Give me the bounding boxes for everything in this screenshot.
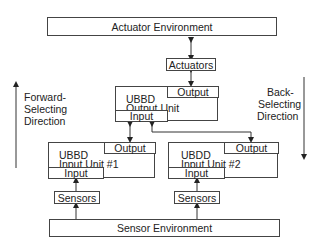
actuator-environment-box: Actuator Environment	[47, 17, 277, 36]
input-unit-2-input-port: Input	[168, 167, 225, 179]
back-line1: Back-	[267, 87, 294, 98]
input-unit-2-box: UBDD Input Unit #2 Output Input	[168, 142, 278, 178]
sensors-2-label: Sensors	[178, 192, 217, 204]
forward-line1: Forward-	[24, 92, 66, 103]
input-unit-2-output-port: Output	[224, 142, 279, 154]
input-port-label: Input	[185, 167, 208, 179]
sensor-environment-label: Sensor Environment	[117, 222, 212, 234]
sensors-2-box: Sensors	[174, 191, 220, 204]
input-port-label: Input	[130, 110, 153, 122]
actuators-box: Actuators	[166, 58, 216, 71]
output-port-label: Output	[114, 142, 146, 154]
output-port-label: Output	[236, 142, 268, 154]
output-unit-input-port: Input	[115, 110, 168, 122]
forward-line3: Direction	[24, 116, 65, 127]
input-unit-1-input-port: Input	[48, 167, 104, 179]
input-unit-1-box: UBBD Input Unit #1 Output Input	[48, 142, 155, 178]
input-unit-1-output-port: Output	[104, 142, 156, 154]
back-line2: Selecting	[258, 99, 301, 110]
output-unit-box: UBBD Output Unit Output Input	[115, 86, 218, 121]
forward-line2: Selecting	[24, 104, 67, 115]
input-port-label: Input	[64, 167, 87, 179]
sensor-environment-box: Sensor Environment	[49, 219, 280, 237]
back-line3: Direction	[257, 111, 298, 122]
actuator-environment-label: Actuator Environment	[112, 21, 213, 33]
sensors-1-label: Sensors	[58, 192, 97, 204]
sensors-1-box: Sensors	[54, 191, 100, 204]
output-port-label: Output	[177, 86, 209, 98]
output-unit-output-port: Output	[167, 86, 219, 98]
actuators-label: Actuators	[169, 59, 213, 71]
